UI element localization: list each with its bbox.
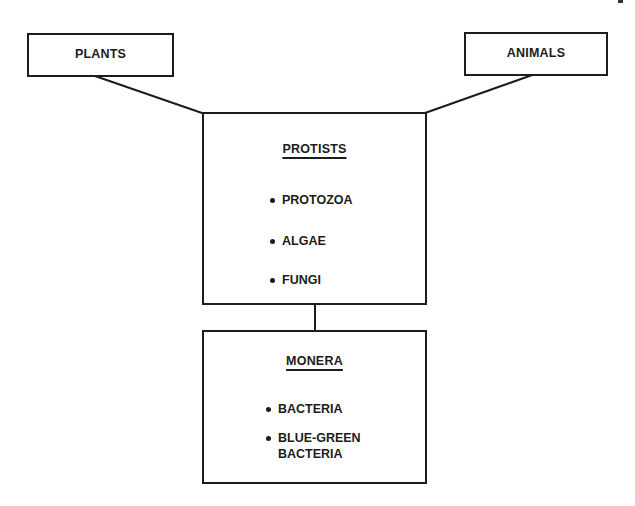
protists-title: PROTISTS	[204, 142, 425, 156]
bullet-icon	[270, 198, 275, 203]
animals-label: ANIMALS	[466, 46, 606, 60]
bullet-icon	[266, 407, 271, 412]
bullet-icon	[270, 278, 275, 283]
bullet-icon	[270, 239, 275, 244]
monera-box: MONERA BACTERIA BLUE-GREEN BACTERIA	[202, 330, 427, 484]
protists-item-algae: ALGAE	[282, 233, 326, 249]
plants-label: PLANTS	[29, 47, 172, 61]
edge-animals-protists	[425, 74, 535, 113]
monera-item-bacteria: BACTERIA	[278, 401, 343, 417]
monera-title: MONERA	[204, 354, 425, 368]
monera-item-blue-green: BLUE-GREEN	[278, 430, 361, 446]
monera-item-blue-green-cont: BACTERIA	[278, 446, 343, 462]
edge-plants-protists	[95, 76, 202, 113]
bullet-icon	[266, 436, 271, 441]
animals-box: ANIMALS	[464, 32, 608, 76]
protists-item-fungi: FUNGI	[282, 272, 321, 288]
protists-box: PROTISTS PROTOZOA ALGAE FUNGI	[202, 112, 427, 305]
protists-item-protozoa: PROTOZOA	[282, 192, 353, 208]
plants-box: PLANTS	[27, 33, 174, 77]
